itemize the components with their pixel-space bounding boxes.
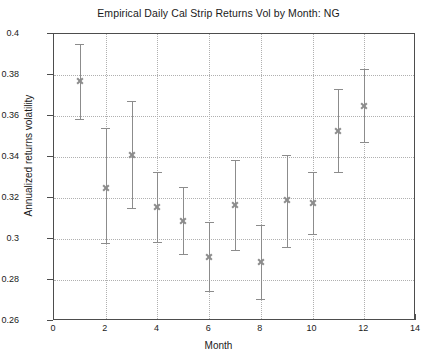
gridline-horizontal bbox=[54, 75, 414, 76]
errorbar-cap-lower bbox=[282, 247, 291, 248]
errorbar-cap-upper bbox=[308, 172, 317, 173]
x-tick-label: 2 bbox=[102, 323, 107, 333]
plot-area bbox=[53, 33, 415, 320]
x-tick-mark bbox=[415, 314, 416, 320]
errorbar-cap-upper bbox=[256, 225, 265, 226]
chart-title: Empirical Daily Cal Strip Returns Vol by… bbox=[0, 7, 437, 19]
errorbar-cap-lower bbox=[75, 119, 84, 120]
y-axis-label: Annualized returns volatility bbox=[23, 36, 34, 276]
data-point-marker bbox=[334, 127, 342, 135]
x-tick-label: 12 bbox=[358, 323, 368, 333]
y-tick-label: 0.34 bbox=[1, 151, 19, 161]
errorbar-cap-upper bbox=[75, 44, 84, 45]
gridline-horizontal bbox=[54, 116, 414, 117]
errorbar-cap-lower bbox=[256, 299, 265, 300]
x-tick-label: 6 bbox=[206, 323, 211, 333]
x-tick-label: 8 bbox=[257, 323, 262, 333]
data-point-marker bbox=[257, 258, 265, 266]
data-point-marker bbox=[76, 77, 84, 85]
y-tick-label: 0.32 bbox=[1, 192, 19, 202]
errorbar-cap-lower bbox=[334, 172, 343, 173]
x-axis-label: Month bbox=[0, 340, 437, 351]
y-tick-label: 0.36 bbox=[1, 110, 19, 120]
data-point-marker bbox=[128, 151, 136, 159]
data-point-marker bbox=[283, 196, 291, 204]
data-point-marker bbox=[179, 217, 187, 225]
x-tick-label: 4 bbox=[154, 323, 159, 333]
data-point-marker bbox=[309, 199, 317, 207]
errorbar-cap-upper bbox=[231, 160, 240, 161]
x-tick-label: 10 bbox=[307, 323, 317, 333]
errorbar-cap-lower bbox=[127, 208, 136, 209]
errorbar-cap-upper bbox=[153, 172, 162, 173]
errorbar-cap-upper bbox=[179, 187, 188, 188]
gridline-horizontal bbox=[54, 157, 414, 158]
errorbar-cap-lower bbox=[308, 234, 317, 235]
gridline-horizontal bbox=[54, 239, 414, 240]
errorbar-cap-lower bbox=[360, 142, 369, 143]
errorbar-cap-upper bbox=[334, 89, 343, 90]
errorbar-cap-upper bbox=[101, 128, 110, 129]
x-tick-label: 0 bbox=[50, 323, 55, 333]
y-tick-label: 0.4 bbox=[6, 28, 19, 38]
data-point-marker bbox=[231, 201, 239, 209]
errorbar-cap-lower bbox=[153, 242, 162, 243]
y-tick-label: 0.26 bbox=[1, 315, 19, 325]
figure-canvas: Empirical Daily Cal Strip Returns Vol by… bbox=[0, 0, 437, 364]
errorbar-cap-upper bbox=[360, 69, 369, 70]
errorbar-cap-lower bbox=[101, 243, 110, 244]
y-tick-label: 0.38 bbox=[1, 69, 19, 79]
errorbar-cap-lower bbox=[231, 250, 240, 251]
x-tick-label: 14 bbox=[410, 323, 420, 333]
data-point-marker bbox=[360, 102, 368, 110]
errorbar-cap-upper bbox=[205, 222, 214, 223]
data-point-marker bbox=[205, 253, 213, 261]
errorbar-cap-upper bbox=[127, 101, 136, 102]
y-tick-label: 0.28 bbox=[1, 274, 19, 284]
errorbar-cap-lower bbox=[205, 291, 214, 292]
errorbar-cap-upper bbox=[282, 155, 291, 156]
data-point-marker bbox=[153, 203, 161, 211]
gridline-horizontal bbox=[54, 198, 414, 199]
y-tick-mark bbox=[47, 320, 53, 321]
data-point-marker bbox=[102, 184, 110, 192]
y-tick-label: 0.3 bbox=[6, 233, 19, 243]
gridline-horizontal bbox=[54, 280, 414, 281]
errorbar-cap-lower bbox=[179, 254, 188, 255]
